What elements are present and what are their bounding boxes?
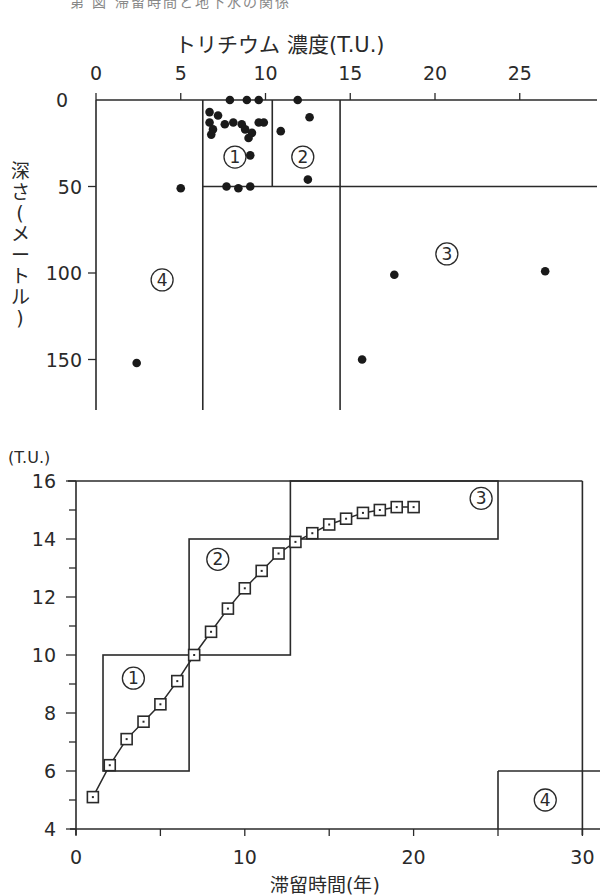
square-marker-dot xyxy=(413,506,415,508)
square-marker-dot xyxy=(210,631,212,633)
y-axis-unit: (T.U.) xyxy=(8,448,50,467)
series-line xyxy=(93,507,414,797)
square-marker-dot xyxy=(311,532,313,534)
square-marker-dot xyxy=(396,506,398,508)
x-tick-label: 20 xyxy=(402,846,426,868)
y-tick-label: 14 xyxy=(32,528,56,550)
square-marker-dot xyxy=(159,703,161,705)
x-tick-label: 30 xyxy=(570,846,594,868)
region-label: 3 xyxy=(476,488,487,508)
square-marker-dot xyxy=(227,608,229,610)
y-tick-label: 8 xyxy=(44,702,56,724)
region-label: 4 xyxy=(540,790,551,810)
square-marker-dot xyxy=(328,524,330,526)
square-marker-dot xyxy=(379,509,381,511)
square-marker-dot xyxy=(143,721,145,723)
square-marker-dot xyxy=(345,518,347,520)
square-marker-dot xyxy=(193,654,195,656)
square-marker-dot xyxy=(278,553,280,555)
region-label: 2 xyxy=(212,549,223,569)
square-marker-dot xyxy=(261,570,263,572)
x-tick-label: 0 xyxy=(70,846,82,868)
square-marker-dot xyxy=(362,512,364,514)
x-axis-title: 滞留時間(年) xyxy=(270,874,380,895)
region-box-1 xyxy=(103,655,189,771)
square-marker-dot xyxy=(126,738,128,740)
y-tick-label: 4 xyxy=(44,818,56,840)
region-label: 1 xyxy=(128,668,139,688)
square-marker-dot xyxy=(109,764,111,766)
residence-time-line-chart: (T.U.)468101214160102030滞留時間(年)1234 xyxy=(0,0,610,895)
square-marker-dot xyxy=(244,587,246,589)
square-marker-dot xyxy=(294,541,296,543)
y-tick-label: 16 xyxy=(32,470,56,492)
y-tick-label: 6 xyxy=(44,760,56,782)
y-tick-label: 10 xyxy=(32,644,56,666)
square-marker-dot xyxy=(92,796,94,798)
x-tick-label: 10 xyxy=(233,846,257,868)
y-tick-label: 12 xyxy=(32,586,56,608)
square-marker-dot xyxy=(176,680,178,682)
